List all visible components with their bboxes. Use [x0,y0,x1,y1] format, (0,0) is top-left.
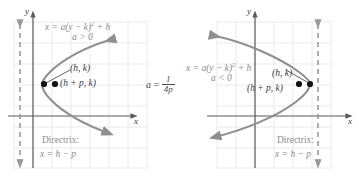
parabola-figure: x = a(y − k)2 + h a > 0 (h, k) (h + p, k… [0,0,359,177]
formula-lhs: a [146,79,151,90]
grid-lines [14,22,147,168]
formula-denominator: 4p [162,85,175,95]
left-x-axis-label: x [134,117,138,126]
left-y-axis-label: y [25,7,29,16]
left-directrix-title: Directrix: [42,136,79,146]
grid-lines [217,22,331,168]
right-focus-label: (h + p, k) [247,84,283,94]
formula-equals: = [154,79,160,90]
right-directrix-title: Directrix: [277,136,314,146]
right-vertex-label: (h, k) [272,69,292,79]
left-equation-label: x = a(y − k)2 + h [45,21,110,33]
right-y-axis-label: y [247,7,251,16]
right-equation-label: x = a(y − k)2 + h [186,62,251,74]
left-vertex-label: (h, k) [70,64,90,74]
vertex-point [307,81,313,87]
focus-point [52,81,58,87]
focus-point [296,81,302,87]
focal-coefficient-formula: a = 1 4p [146,76,175,96]
left-directrix-equation: x = h − p [40,150,76,160]
left-focus-label: (h + p, k) [60,79,96,89]
formula-fraction: 1 4p [162,75,175,95]
left-condition-label: a > 0 [72,33,93,43]
vertex-point [41,81,47,87]
right-condition-label: a < 0 [211,74,232,84]
right-x-axis-label: x [348,117,352,126]
right-directrix-equation: x = h − p [275,150,311,160]
